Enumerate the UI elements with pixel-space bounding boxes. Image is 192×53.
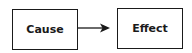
arrow-icon [77,20,118,36]
cause-node: Cause [12,9,78,50]
effect-node: Effect [117,8,183,49]
effect-label: Effect [132,22,168,35]
cause-label: Cause [26,23,63,36]
